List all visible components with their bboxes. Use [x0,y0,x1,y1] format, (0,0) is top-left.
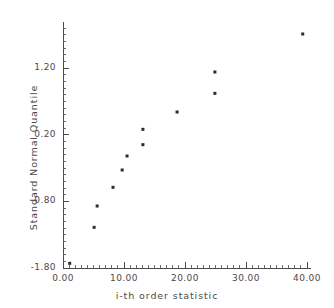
figure-caption [0,303,334,308]
figure-container: 0.0010.0020.0030.0040.00 -1.80-0.800.201… [0,0,334,308]
data-point [112,186,115,189]
data-point [141,128,144,131]
data-points-group [68,33,304,265]
y-tick-label: -1.80 [12,262,56,272]
x-tick-label: 20.00 [163,273,207,283]
x-axis-title: i-th order statistic [0,290,334,301]
data-point [213,71,216,74]
data-point [121,169,124,172]
data-point [96,205,99,208]
axes-group [63,22,311,268]
y-axis-title: Standard Normal Quantile [28,63,39,253]
tick-marks-group [63,28,307,268]
data-point [176,111,179,114]
data-point [141,143,144,146]
data-point [68,262,71,265]
data-point [126,155,129,158]
x-tick-label: 10.00 [102,273,146,283]
x-tick-label: 40.00 [285,273,329,283]
data-point [93,226,96,229]
x-tick-label: 30.00 [224,273,268,283]
x-tick-label: 0.00 [41,273,85,283]
data-point [213,92,216,95]
data-point [301,33,304,36]
